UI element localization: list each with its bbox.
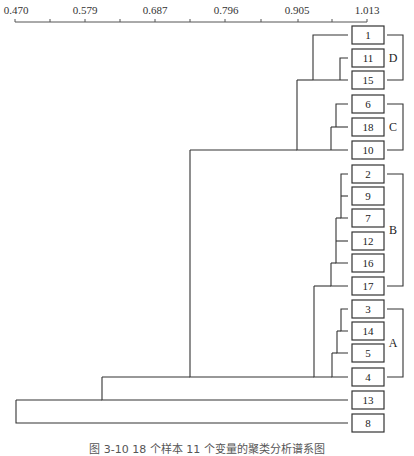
group-label-c: C	[389, 120, 397, 134]
leaf-label: 9	[365, 190, 371, 202]
figure-caption: 图 3-10 18 个样本 11 个变量的聚类分析谱系图	[0, 440, 414, 456]
tick-label: 0.470	[4, 4, 29, 16]
leaf-10: 10	[352, 141, 384, 159]
tick-label: 0.687	[143, 4, 168, 16]
tick-label: 1.013	[355, 4, 380, 16]
leaf-label: 14	[363, 325, 375, 337]
leaf-2: 2	[352, 165, 384, 183]
leaf-18: 18	[352, 118, 384, 136]
leaf-7: 7	[352, 209, 384, 227]
leaf-1: 1	[352, 26, 384, 44]
group-label-d: D	[389, 51, 398, 65]
leaf-label: 17	[363, 280, 375, 292]
leaf-label: 12	[363, 235, 374, 247]
group-brackets	[387, 35, 403, 377]
leaf-label: 15	[363, 74, 375, 86]
group-labels: D C B A	[389, 51, 398, 350]
leaf-label: 18	[363, 121, 375, 133]
tick-label: 0.579	[73, 4, 98, 16]
leaf-5: 5	[352, 344, 384, 362]
leaf-label: 13	[363, 394, 375, 406]
leaf-nodes: 1 11 15 6 18 10 2 9 7 12 16 17 3 14 5 4 …	[352, 26, 384, 432]
leaf-13: 13	[352, 391, 384, 409]
tick-label: 0.796	[214, 4, 239, 16]
leaf-label: 7	[365, 212, 371, 224]
leaf-label: 10	[363, 144, 375, 156]
leaf-label: 16	[363, 257, 375, 269]
leaf-label: 3	[365, 303, 371, 315]
leaf-9: 9	[352, 187, 384, 205]
leaf-label: 6	[365, 98, 371, 110]
leaf-8: 8	[352, 414, 384, 432]
leaf-14: 14	[352, 322, 384, 340]
similarity-axis	[15, 19, 367, 22]
leaf-4: 4	[352, 368, 384, 386]
leaf-12: 12	[352, 232, 384, 250]
leaf-label: 1	[365, 29, 371, 41]
leaf-label: 8	[365, 417, 371, 429]
leaf-16: 16	[352, 254, 384, 272]
leaf-6: 6	[352, 95, 384, 113]
leaf-15: 15	[352, 71, 384, 89]
leaf-label: 11	[363, 52, 374, 64]
leaf-label: 2	[365, 168, 371, 180]
leaf-11: 11	[352, 49, 384, 67]
leaf-label: 4	[365, 371, 371, 383]
leaf-3: 3	[352, 300, 384, 318]
axis-tick-labels: 0.470 0.579 0.687 0.796 0.905 1.013	[4, 4, 380, 16]
leaf-17: 17	[352, 277, 384, 295]
tree-branches	[16, 35, 348, 423]
group-label-a: A	[389, 336, 398, 350]
leaf-label: 5	[365, 347, 371, 359]
tick-label: 0.905	[285, 4, 310, 16]
group-label-b: B	[389, 223, 397, 237]
